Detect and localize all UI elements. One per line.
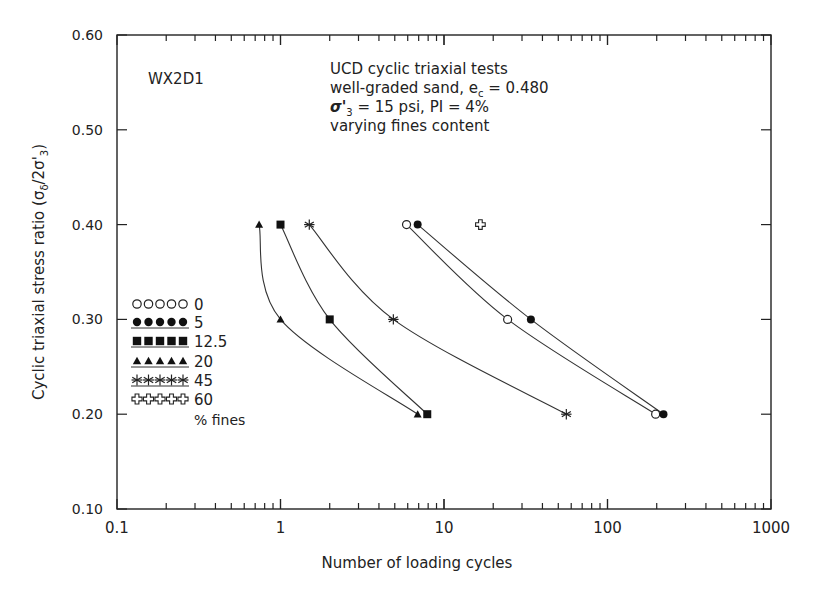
legend-item-5: 5 (131, 314, 204, 332)
asterisk-marker-icon (388, 314, 398, 324)
fit-curve-5 (418, 225, 664, 415)
fit-curve-12.5 (281, 225, 428, 415)
filled-square-marker-icon (133, 337, 141, 345)
legend-label: 45 (194, 372, 213, 390)
filled-square-marker-icon (167, 337, 175, 345)
legend-label: 0 (194, 296, 204, 314)
info-line-1: UCD cyclic triaxial tests (330, 60, 508, 78)
legend-item-45: 45 (131, 372, 213, 390)
open-cross-marker-icon (178, 394, 188, 404)
filled-triangle-marker-icon (133, 357, 141, 365)
open-cross-marker-icon (166, 394, 176, 404)
y-tick-label: 0.10 (72, 501, 103, 517)
open-cross-marker-icon (132, 394, 142, 404)
filled-circle-marker-icon (156, 318, 164, 326)
asterisk-marker-icon (155, 375, 166, 386)
filled-circle-marker-icon (167, 318, 175, 326)
y-tick-label: 0.50 (72, 122, 103, 138)
specimen-id-label: WX2D1 (148, 70, 204, 88)
y-tick-label: 0.30 (72, 311, 103, 327)
legend-footer: % fines (194, 412, 245, 428)
legend-item-0: 0 (133, 296, 204, 314)
x-tick-label: 1000 (752, 519, 790, 537)
chart-canvas: 0.111010010000.100.200.300.400.500.60 05… (0, 0, 826, 593)
open-circle-marker-icon (403, 221, 411, 229)
open-circle-marker-icon (167, 300, 175, 308)
legend-item-12.5: 12.5 (131, 333, 227, 351)
x-tick-label: 100 (593, 519, 622, 537)
y-tick-label: 0.40 (72, 217, 103, 233)
filled-square-marker-icon (156, 337, 164, 345)
filled-circle-marker-icon (179, 318, 187, 326)
filled-square-marker-icon (144, 337, 152, 345)
x-tick-label: 10 (434, 519, 453, 537)
filled-triangle-marker-icon (156, 357, 164, 365)
filled-triangle-marker-icon (144, 357, 152, 365)
x-axis-label: Number of loading cycles (322, 554, 513, 572)
x-tick-label: 0.1 (105, 519, 129, 537)
filled-triangle-marker-icon (414, 410, 422, 417)
legend-label: 12.5 (194, 333, 227, 351)
info-line-3: σ'3 = 15 psi, PI = 4% (330, 98, 489, 118)
open-circle-marker-icon (179, 300, 187, 308)
filled-square-marker-icon (326, 315, 334, 323)
asterisk-marker-icon (178, 375, 189, 386)
filled-triangle-marker-icon (167, 357, 175, 365)
filled-circle-marker-icon (414, 221, 422, 229)
legend-item-60: 60 (132, 391, 213, 409)
y-tick-label: 0.20 (72, 406, 103, 422)
asterisk-marker-icon (143, 375, 154, 386)
open-circle-marker-icon (504, 315, 512, 323)
data-points (255, 219, 667, 419)
legend-item-20: 20 (131, 353, 213, 371)
open-circle-marker-icon (652, 410, 660, 418)
filled-triangle-marker-icon (179, 357, 187, 365)
open-cross-marker-icon (143, 394, 153, 404)
info-line-4: varying fines content (330, 117, 489, 135)
filled-circle-marker-icon (144, 318, 152, 326)
open-circle-marker-icon (133, 300, 141, 308)
filled-circle-marker-icon (527, 315, 535, 323)
x-tick-label: 1 (276, 519, 286, 537)
test-info-annotation: UCD cyclic triaxial tests well-graded sa… (330, 60, 549, 135)
info-line-2: well-graded sand, ec = 0.480 (330, 79, 549, 99)
open-circle-marker-icon (144, 300, 152, 308)
legend-label: 20 (194, 353, 213, 371)
open-cross-marker-icon (476, 220, 486, 230)
legend-label: 60 (194, 391, 213, 409)
legend-label: 5 (194, 314, 204, 332)
filled-circle-marker-icon (133, 318, 141, 326)
filled-triangle-marker-icon (255, 221, 263, 228)
filled-circle-marker-icon (659, 410, 667, 418)
fit-curves (259, 225, 663, 415)
asterisk-marker-icon (132, 375, 143, 386)
filled-square-marker-icon (423, 410, 431, 418)
asterisk-marker-icon (561, 409, 571, 419)
open-circle-marker-icon (156, 300, 164, 308)
filled-square-marker-icon (179, 337, 187, 345)
y-tick-label: 0.60 (72, 27, 103, 43)
open-cross-marker-icon (155, 394, 165, 404)
legend: 0512.5204560 (131, 296, 227, 409)
asterisk-marker-icon (166, 375, 177, 386)
y-axis-label: Cyclic triaxial stress ratio (σδ/2σ'3) (30, 144, 50, 400)
filled-square-marker-icon (277, 221, 285, 229)
